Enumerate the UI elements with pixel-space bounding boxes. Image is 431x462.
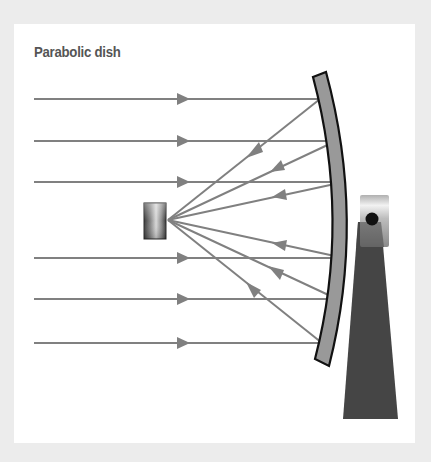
reflected-rays [168, 99, 344, 343]
incoming-ray-5 [34, 293, 337, 305]
receiver [144, 203, 166, 239]
reflected-ray-4 [168, 220, 344, 258]
incoming-ray-6 [34, 337, 322, 349]
parabolic-dish-diagram [0, 0, 431, 462]
incoming-ray-2 [34, 135, 336, 147]
incoming-ray-3 [34, 176, 344, 188]
mount-pivot-icon [366, 213, 379, 226]
incoming-rays [34, 93, 344, 349]
incoming-ray-1 [34, 93, 320, 105]
dish-mount [356, 195, 389, 247]
reflected-ray-3 [168, 182, 344, 220]
dish-stand [343, 222, 398, 419]
parabolic-reflector [313, 72, 347, 366]
incoming-ray-4 [34, 252, 344, 264]
